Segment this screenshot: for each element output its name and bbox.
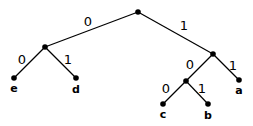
edge-bit-label: 0 [186, 57, 194, 72]
edge-bit-label: 1 [198, 81, 206, 96]
leaf-node-d [73, 75, 79, 81]
leaf-node-c [160, 101, 166, 107]
leaf-node-b [205, 101, 211, 107]
edge-bit-label: 1 [64, 52, 72, 67]
internal-node [42, 44, 48, 50]
leaf-label-d: d [72, 83, 80, 96]
edge-root-n1 [138, 12, 213, 54]
leaf-label-b: b [204, 109, 212, 122]
leaf-label-e: e [10, 82, 17, 95]
edge-bit-label: 0 [162, 81, 170, 96]
internal-node [210, 51, 216, 57]
leaf-label-a: a [235, 84, 242, 97]
edge-bit-label: 0 [84, 14, 92, 29]
edge-bit-labels: 01010101 [18, 14, 237, 96]
code-tree-diagram: 01010101 edacb [0, 0, 253, 126]
leaf-node-a [236, 77, 242, 83]
edge-bit-label: 1 [229, 58, 237, 73]
edge-bit-label: 1 [180, 18, 188, 33]
leaf-label-c: c [160, 108, 167, 121]
internal-node [183, 78, 189, 84]
leaf-node-e [11, 75, 17, 81]
tree-nodes [11, 9, 242, 107]
internal-node [135, 9, 141, 15]
edge-bit-label: 0 [18, 52, 26, 67]
